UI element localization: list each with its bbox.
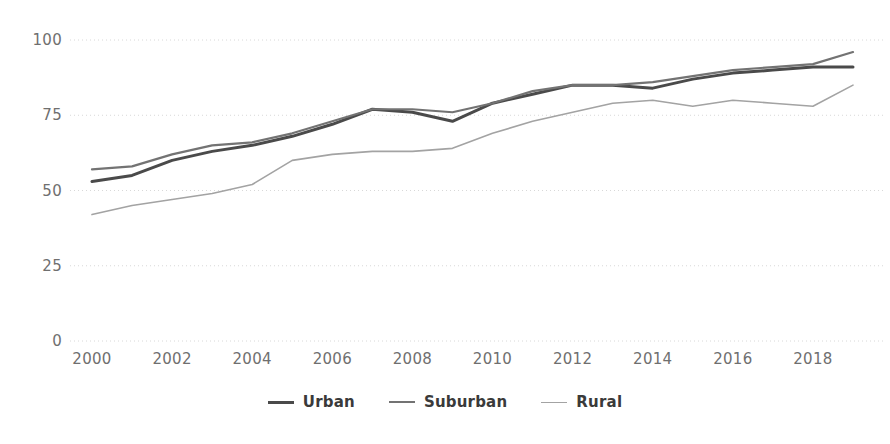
x-axis: 2000200220042006200820102012201420162018 (0, 352, 890, 380)
x-tick-label-2012: 2012 (553, 352, 592, 367)
y-tick-label-0: 0 (52, 334, 62, 349)
y-tick-label-25: 25 (42, 258, 62, 273)
legend-label: Urban (303, 395, 355, 410)
legend-item-suburban[interactable]: Suburban (389, 395, 507, 410)
legend-item-urban[interactable]: Urban (268, 395, 355, 410)
y-tick-label-75: 75 (42, 108, 62, 123)
x-tick-label-2016: 2016 (713, 352, 752, 367)
x-tick-label-2002: 2002 (152, 352, 191, 367)
legend-swatch-rural-icon (541, 402, 567, 403)
legend-swatch-urban-icon (268, 401, 294, 404)
x-tick-label-2014: 2014 (633, 352, 672, 367)
line-chart: 0255075100 20002002200420062008201020122… (0, 0, 890, 444)
legend-swatch-suburban-icon (389, 401, 415, 403)
gridlines (70, 40, 884, 341)
legend-label: Rural (576, 395, 622, 410)
series-line-rural (92, 85, 853, 214)
legend-label: Suburban (424, 395, 507, 410)
y-tick-label-50: 50 (42, 183, 62, 198)
legend-item-rural[interactable]: Rural (541, 395, 622, 410)
x-tick-label-2008: 2008 (393, 352, 432, 367)
chart-legend: UrbanSuburbanRural (0, 388, 890, 416)
series-line-urban (92, 67, 853, 181)
x-tick-label-2006: 2006 (313, 352, 352, 367)
x-tick-label-2010: 2010 (473, 352, 512, 367)
x-tick-label-2000: 2000 (72, 352, 111, 367)
x-tick-label-2004: 2004 (233, 352, 272, 367)
y-tick-label-100: 100 (32, 33, 62, 48)
x-tick-label-2018: 2018 (793, 352, 832, 367)
